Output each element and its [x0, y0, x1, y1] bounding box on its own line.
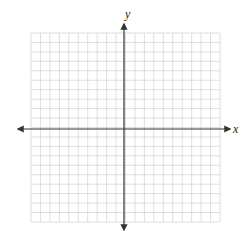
grid-lines: [31, 33, 220, 222]
coordinate-plane: x y: [0, 0, 248, 231]
x-axis-label: x: [232, 122, 239, 136]
y-axis-label: y: [124, 7, 131, 21]
